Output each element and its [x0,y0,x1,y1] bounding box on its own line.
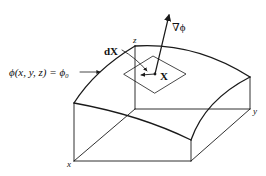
axis-x-label: x [66,159,71,169]
axis-y-label: y [252,106,257,116]
box-floor [74,109,250,161]
point-label: X [160,70,168,82]
gradient-label: ∇ϕ [172,21,186,33]
surface-equation-label: ϕ(x, y, z) = ϕ₀ [9,66,69,79]
tangent-vector-dX [141,74,155,75]
point-X-dot [154,73,157,76]
level-surface-diagram: ϕ(x, y, z) = ϕ₀ ∇ϕ dX X z y x [0,0,266,176]
gradient-arrow [155,15,169,74]
level-surface [74,46,250,140]
axis-z-label: z [132,35,137,45]
tangent-label: dX [104,45,118,57]
